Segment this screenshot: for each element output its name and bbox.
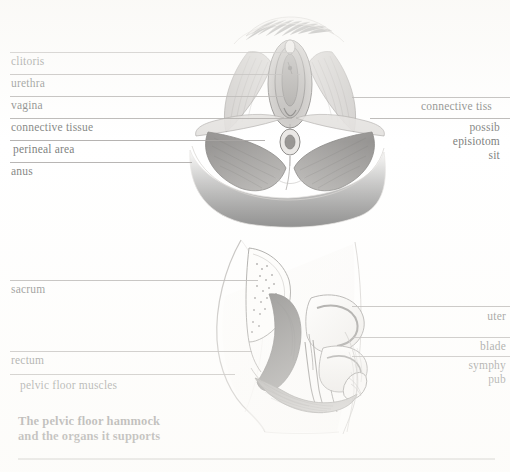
leader-line-anus [10,162,192,163]
vaginal-opening [282,54,298,106]
label-pubis: pub [414,373,506,386]
label-clitoris: clitoris [11,55,45,68]
figure-pelvic-sagittal-section [205,236,405,436]
leader-line-rectum [10,351,252,352]
label-episiotomy: episiotom [408,135,500,148]
leader-line-connective-tissue-right [352,97,510,98]
leader-line-pelvic-floor-muscles [10,374,235,375]
label-connective-tissue-right: connective tiss [421,100,492,113]
leader-line-connective-tissue [10,118,292,119]
footer-divider [18,458,495,460]
label-pelvic-floor-muscles: pelvic floor muscles [20,379,117,392]
label-uterus: uter [420,310,506,323]
leader-line-urethra [10,74,300,75]
leader-line-symphysis-pubis [352,356,510,357]
leader-line-clitoris [10,52,293,53]
leader-line-uterus [352,306,510,307]
label-bladder: blade [420,340,506,353]
illustration-page: clitoris urethra vagina connective tissu… [0,0,510,472]
leader-line-possible-episiotomy-site [370,118,510,119]
leader-line-sacrum [10,280,258,281]
perineum-drawing [188,0,388,228]
leader-line-perineal-area [10,140,265,141]
label-possible: possib [408,121,500,134]
leader-line-bladder [352,337,510,338]
label-perineal-area: perineal area [13,143,75,156]
figure-caption: The pelvic floor hammock and the organs … [18,414,278,444]
figure-perineum-from-below [188,0,388,228]
label-rectum: rectum [11,354,44,367]
label-sacrum: sacrum [11,283,45,296]
label-anus: anus [11,165,33,178]
label-connective-tissue: connective tissue [11,121,93,134]
label-urethra: urethra [11,77,45,90]
perineal-raphe [286,156,290,190]
label-vagina: vagina [11,99,43,112]
label-site: sit [408,149,500,162]
leader-line-vagina [10,96,296,97]
uterus-organ [306,295,364,353]
label-symphysis: symphy [414,359,506,372]
pelvis-sagittal-drawing [205,236,405,436]
